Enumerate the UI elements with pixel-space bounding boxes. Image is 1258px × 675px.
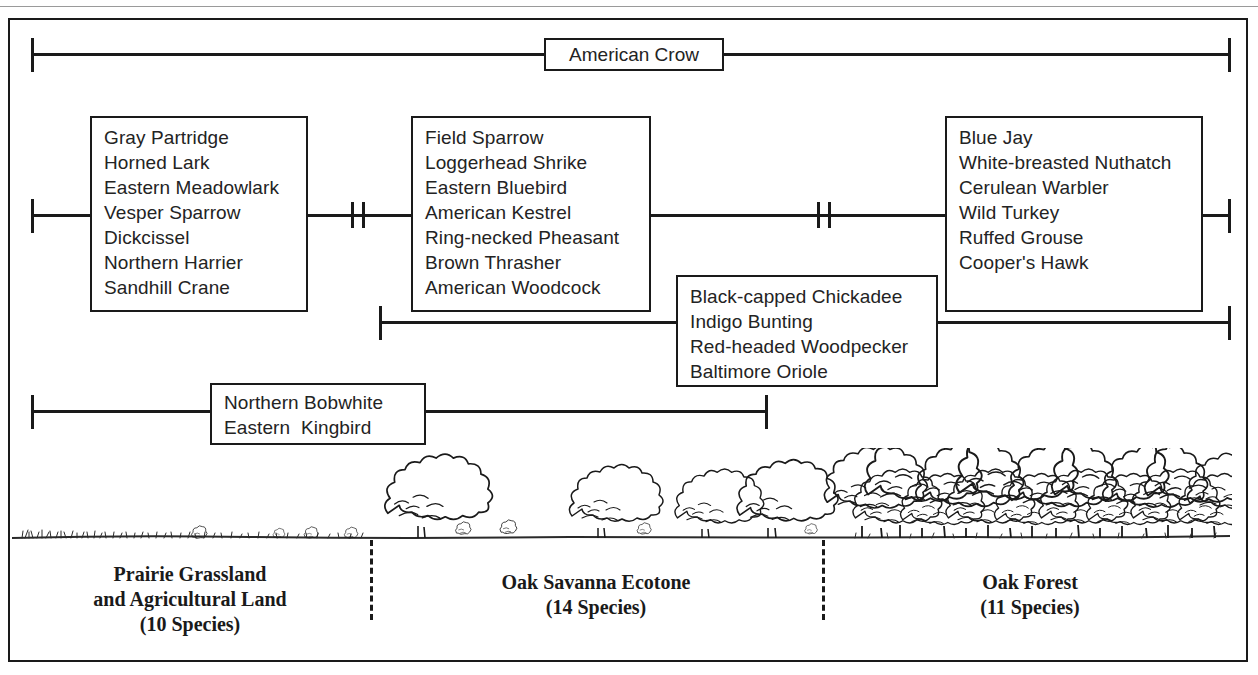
zone-caption-oak-forest: Oak Forest (11 Species)	[840, 570, 1220, 620]
habitat-gradient-illustration	[10, 448, 1232, 568]
species-box-american-crow[interactable]: American Crow	[544, 38, 724, 71]
species-label: Cerulean Warbler	[959, 175, 1189, 200]
species-label: Eastern Bluebird	[425, 175, 637, 200]
species-label: American Crow	[569, 43, 699, 67]
break-mark-right-a	[817, 202, 820, 228]
species-label: Eastern Meadowlark	[104, 175, 294, 200]
caption-line: (14 Species)	[386, 595, 806, 620]
crow-range-line-left	[31, 53, 544, 56]
species-label: Cooper's Hawk	[959, 250, 1189, 275]
species-label: Wild Turkey	[959, 200, 1189, 225]
species-label: Vesper Sparrow	[104, 200, 294, 225]
species-box-savanna-forest[interactable]: Black-capped Chickadee Indigo Bunting Re…	[676, 275, 938, 387]
break-mark-left-b	[362, 202, 365, 228]
divider-savanna-forest	[822, 540, 825, 620]
zone-caption-oak-savanna-ecotone: Oak Savanna Ecotone (14 Species)	[386, 570, 806, 620]
break-mark-right-b	[828, 202, 831, 228]
page-rule	[0, 6, 1258, 7]
species-label: Horned Lark	[104, 150, 294, 175]
figure-root: American Crow Gray Partridge Horned Lark…	[0, 0, 1258, 675]
divider-prairie-savanna	[370, 540, 373, 620]
prairie-range-line	[31, 214, 91, 217]
species-label: Northern Bobwhite	[224, 390, 412, 415]
forest-range-line	[1202, 214, 1229, 217]
species-label: Dickcissel	[104, 225, 294, 250]
species-label: Loggerhead Shrike	[425, 150, 637, 175]
species-label: Ring-necked Pheasant	[425, 225, 637, 250]
caption-line: (10 Species)	[20, 612, 360, 637]
species-label: Black-capped Chickadee	[690, 284, 924, 309]
caption-line: Oak Savanna Ecotone	[386, 570, 806, 595]
species-label: Brown Thrasher	[425, 250, 637, 275]
savanna-forest-range-line-right	[936, 321, 1230, 324]
savanna-forest-connector	[650, 214, 946, 217]
species-label: Blue Jay	[959, 125, 1189, 150]
caption-line: (11 Species)	[840, 595, 1220, 620]
caption-line: Oak Forest	[840, 570, 1220, 595]
species-label: Red-headed Woodpecker	[690, 334, 924, 359]
forest-range-right-tick	[1228, 199, 1231, 233]
prairie-savanna-range-line-left	[31, 410, 211, 413]
caption-line: and Agricultural Land	[20, 587, 360, 612]
savanna-forest-range-line-left	[379, 321, 678, 324]
species-label: Eastern Kingbird	[224, 415, 412, 440]
species-label: American Woodcock	[425, 275, 637, 300]
species-label: Indigo Bunting	[690, 309, 924, 334]
species-label: Northern Harrier	[104, 250, 294, 275]
species-label: White-breasted Nuthatch	[959, 150, 1189, 175]
species-box-prairie[interactable]: Gray Partridge Horned Lark Eastern Meado…	[90, 116, 308, 312]
zone-caption-prairie-grassland: Prairie Grassland and Agricultural Land …	[20, 562, 360, 637]
species-box-prairie-savanna[interactable]: Northern Bobwhite Eastern Kingbird	[210, 383, 426, 445]
prairie-savanna-range-right-tick	[765, 395, 768, 429]
species-box-savanna[interactable]: Field Sparrow Loggerhead Shrike Eastern …	[411, 116, 651, 312]
caption-line: Prairie Grassland	[20, 562, 360, 587]
prairie-savanna-range-line-right	[425, 410, 768, 413]
prairie-savanna-connector	[307, 214, 412, 217]
species-label: Field Sparrow	[425, 125, 637, 150]
species-label: Gray Partridge	[104, 125, 294, 150]
species-label: Sandhill Crane	[104, 275, 294, 300]
species-box-forest[interactable]: Blue Jay White-breasted Nuthatch Cerulea…	[945, 116, 1203, 312]
break-mark-left-a	[351, 202, 354, 228]
species-label: Ruffed Grouse	[959, 225, 1189, 250]
crow-range-right-tick	[1228, 38, 1231, 72]
savanna-forest-range-right-tick	[1228, 306, 1231, 340]
crow-range-line-right	[722, 53, 1230, 56]
species-label: American Kestrel	[425, 200, 637, 225]
species-label: Baltimore Oriole	[690, 359, 924, 384]
